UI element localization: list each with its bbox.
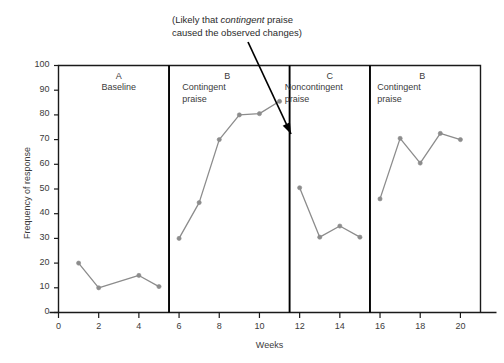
data-point-marker <box>277 99 281 103</box>
phase-letter: B <box>377 71 467 83</box>
data-point-marker <box>77 261 81 265</box>
y-tick-label: 0 <box>10 306 50 316</box>
phase-letter: B <box>182 71 272 83</box>
y-tick-label: 70 <box>10 133 50 143</box>
phase-label: ABaseline <box>74 71 164 94</box>
data-point-marker <box>217 138 221 142</box>
series-line <box>79 263 159 288</box>
data-point-marker <box>458 138 462 142</box>
series-line <box>300 188 360 237</box>
x-tick-label: 12 <box>280 321 320 331</box>
x-tick-label: 4 <box>119 321 159 331</box>
data-point-marker <box>398 136 402 140</box>
phase-name-line2: praise <box>182 94 272 106</box>
x-axis-title: Weeks <box>220 340 320 350</box>
data-point-marker <box>298 186 302 190</box>
y-tick-label: 60 <box>10 158 50 168</box>
chart-canvas <box>0 0 504 363</box>
data-point-marker <box>257 112 261 116</box>
annotation-arrow-head <box>283 122 291 134</box>
annotation-text-post: praise <box>264 14 293 25</box>
y-tick-label: 10 <box>10 281 50 291</box>
data-point-marker <box>197 200 201 204</box>
phase-letter: A <box>74 71 164 83</box>
annotation-line-1: (Likely that contingent praise <box>172 14 302 27</box>
phase-name: Baseline <box>74 82 164 94</box>
annotation-emphasis: contingent <box>221 14 265 25</box>
x-tick-label: 10 <box>239 321 279 331</box>
phase-name-line2: praise <box>285 94 375 106</box>
phase-name: Contingent <box>377 82 467 94</box>
y-tick-label: 100 <box>10 59 50 69</box>
y-tick-label: 30 <box>10 232 50 242</box>
y-tick-label: 40 <box>10 207 50 217</box>
chart-figure: (Likely that contingent praisecaused the… <box>0 0 504 363</box>
x-tick-label: 18 <box>400 321 440 331</box>
data-point-marker <box>318 235 322 239</box>
phase-label: BContingentpraise <box>182 71 272 106</box>
phase-name: Contingent <box>182 82 272 94</box>
phase-label: CNoncontingentpraise <box>285 71 375 106</box>
y-tick-label: 90 <box>10 84 50 94</box>
annotation-text-pre: (Likely that <box>172 14 221 25</box>
annotation-line-2: caused the observed changes) <box>172 27 302 40</box>
series-line <box>380 133 460 198</box>
data-point-marker <box>358 235 362 239</box>
data-point-marker <box>137 273 141 277</box>
data-point-marker <box>157 284 161 288</box>
x-tick-label: 6 <box>159 321 199 331</box>
x-tick-label: 8 <box>199 321 239 331</box>
y-tick-label: 80 <box>10 108 50 118</box>
chart-annotation: (Likely that contingent praisecaused the… <box>172 14 302 39</box>
data-point-marker <box>97 286 101 290</box>
data-point-marker <box>378 197 382 201</box>
y-tick-label: 20 <box>10 257 50 267</box>
x-tick-label: 14 <box>320 321 360 331</box>
data-point-marker <box>438 131 442 135</box>
x-tick-label: 2 <box>79 321 119 331</box>
y-tick-label: 50 <box>10 183 50 193</box>
x-tick-label: 16 <box>360 321 400 331</box>
phase-name: Noncontingent <box>285 82 375 94</box>
x-tick-label: 0 <box>39 321 79 331</box>
phase-label: BContingentpraise <box>377 71 467 106</box>
data-point-marker <box>418 161 422 165</box>
data-point-marker <box>237 113 241 117</box>
data-point-marker <box>338 224 342 228</box>
series-line <box>179 101 279 238</box>
phase-letter: C <box>285 71 375 83</box>
data-point-marker <box>177 236 181 240</box>
phase-name-line2: praise <box>377 94 467 106</box>
x-tick-label: 20 <box>440 321 480 331</box>
